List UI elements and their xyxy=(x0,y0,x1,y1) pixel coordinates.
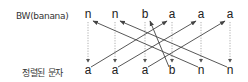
lf-arrow xyxy=(93,21,198,67)
lf-mapping-arrows xyxy=(91,21,227,67)
lf-arrow xyxy=(120,21,227,67)
arrow-layer xyxy=(0,0,248,82)
